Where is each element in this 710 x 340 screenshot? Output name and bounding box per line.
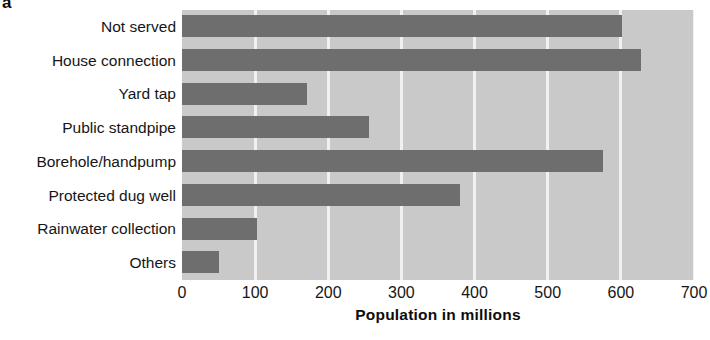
x-tick-label: 0	[178, 283, 187, 303]
x-tick-label: 100	[242, 283, 269, 303]
bar	[182, 49, 641, 71]
category-label: House connection	[0, 52, 176, 70]
bar	[182, 184, 460, 206]
bar	[182, 83, 307, 105]
category-label: Rainwater collection	[0, 220, 176, 238]
figure-panel-a: a Not servedHouse connectionYard tapPubl…	[0, 0, 710, 340]
x-axis-tick-labels: 0100200300400500600700	[0, 283, 710, 307]
bar-row	[182, 44, 694, 78]
category-label: Yard tap	[0, 85, 176, 103]
plot-area	[182, 10, 694, 280]
category-label: Protected dug well	[0, 187, 176, 205]
x-tick-label: 700	[681, 283, 708, 303]
category-label: Not served	[0, 18, 176, 36]
bar-row	[182, 78, 694, 112]
x-axis-title: Population in millions	[182, 306, 694, 324]
x-tick-label: 600	[607, 283, 634, 303]
x-tick-label: 200	[315, 283, 342, 303]
bar-row	[182, 111, 694, 145]
category-label: Borehole/handpump	[0, 153, 176, 171]
category-axis-labels: Not servedHouse connectionYard tapPublic…	[0, 10, 176, 280]
bar	[182, 150, 603, 172]
bar-row	[182, 213, 694, 247]
x-tick-label: 400	[461, 283, 488, 303]
bar	[182, 251, 219, 273]
bar-row	[182, 246, 694, 280]
bar-row	[182, 10, 694, 44]
x-tick-label: 300	[388, 283, 415, 303]
category-label: Others	[0, 254, 176, 272]
x-tick-label: 500	[534, 283, 561, 303]
bar	[182, 116, 369, 138]
bar	[182, 218, 257, 240]
bar	[182, 15, 622, 37]
category-label: Public standpipe	[0, 119, 176, 137]
bar-row	[182, 145, 694, 179]
bar-row	[182, 179, 694, 213]
